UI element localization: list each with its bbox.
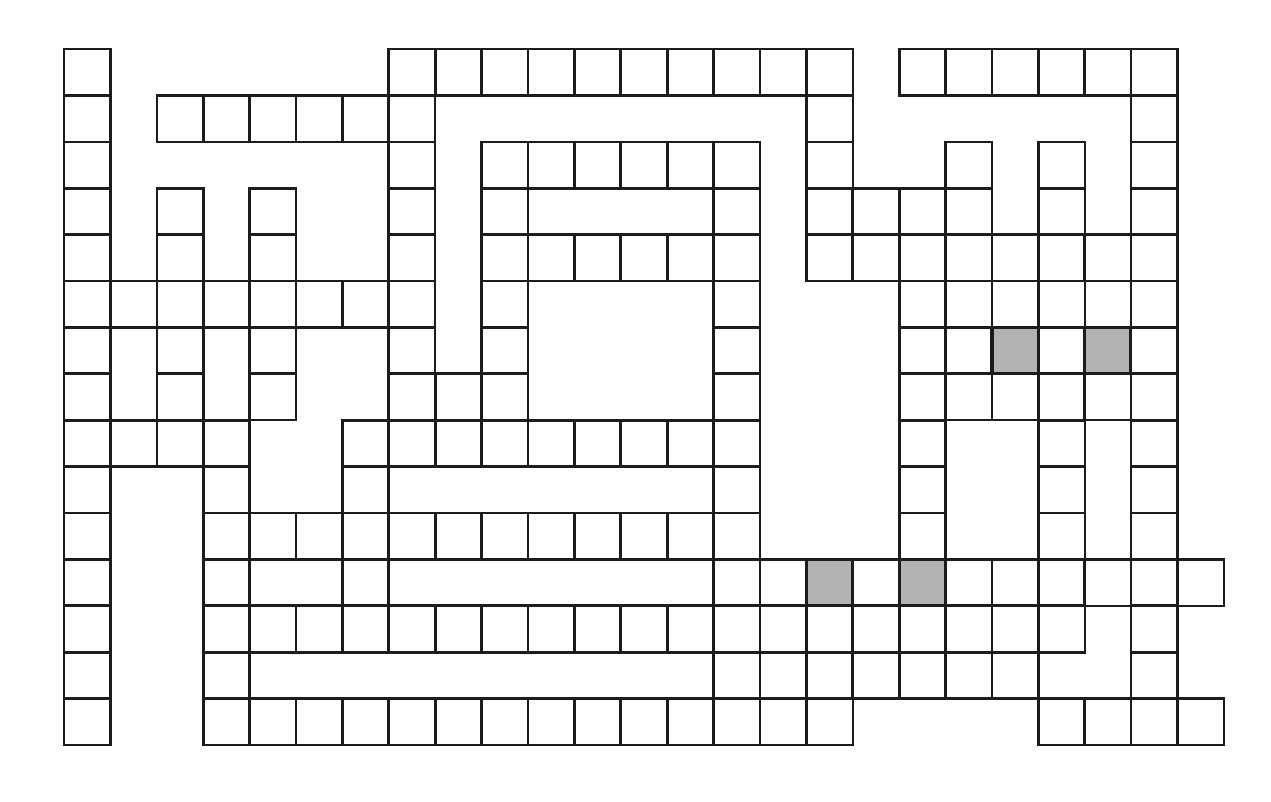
crossword-cell[interactable] [435,49,481,95]
crossword-cell[interactable] [1131,652,1177,698]
crossword-cell[interactable] [667,606,713,652]
crossword-cell-shaded[interactable] [899,559,945,605]
crossword-cell[interactable] [296,95,342,141]
crossword-cell[interactable] [482,327,528,373]
crossword-cell[interactable] [389,374,435,420]
crossword-cell[interactable] [853,188,899,234]
crossword-cell[interactable] [714,699,760,745]
crossword-cell[interactable] [714,327,760,373]
crossword-cell[interactable] [528,49,574,95]
crossword-cell[interactable] [528,606,574,652]
crossword-cell[interactable] [342,699,388,745]
crossword-cell[interactable] [1038,699,1084,745]
crossword-cell[interactable] [667,420,713,466]
crossword-cell[interactable] [714,188,760,234]
crossword-cell[interactable] [250,281,296,327]
crossword-cell[interactable] [992,606,1038,652]
crossword-cell[interactable] [714,513,760,559]
crossword-cell[interactable] [157,281,203,327]
crossword-cell[interactable] [621,699,667,745]
crossword-cell[interactable] [342,420,388,466]
crossword-cell[interactable] [64,420,110,466]
crossword-cell[interactable] [899,49,945,95]
crossword-cell[interactable] [389,49,435,95]
crossword-cell[interactable] [203,652,249,698]
crossword-cell-shaded[interactable] [1085,327,1131,373]
crossword-cell[interactable] [1038,513,1084,559]
crossword-cell[interactable] [621,235,667,281]
crossword-cell[interactable] [574,513,620,559]
crossword-cell[interactable] [1038,559,1084,605]
crossword-cell[interactable] [64,49,110,95]
crossword-cell[interactable] [806,606,852,652]
crossword-cell[interactable] [1131,374,1177,420]
crossword-cell[interactable] [946,374,992,420]
crossword-cell[interactable] [1131,49,1177,95]
crossword-cell[interactable] [528,142,574,188]
crossword-cell[interactable] [574,699,620,745]
crossword-cell[interactable] [389,699,435,745]
crossword-cell[interactable] [1038,327,1084,373]
crossword-cell[interactable] [64,327,110,373]
crossword-cell[interactable] [667,142,713,188]
crossword-cell[interactable] [296,281,342,327]
crossword-cell[interactable] [64,652,110,698]
crossword-cell[interactable] [714,235,760,281]
crossword-cell[interactable] [714,559,760,605]
crossword-cell[interactable] [64,95,110,141]
crossword-cell[interactable] [574,142,620,188]
crossword-cell[interactable] [482,374,528,420]
crossword-cell[interactable] [1038,467,1084,513]
crossword-cell[interactable] [621,142,667,188]
crossword-cell[interactable] [435,513,481,559]
crossword-cell[interactable] [250,374,296,420]
crossword-cell[interactable] [621,513,667,559]
crossword-cell[interactable] [389,188,435,234]
crossword-cell[interactable] [250,606,296,652]
crossword-cell[interactable] [528,513,574,559]
crossword-cell[interactable] [157,188,203,234]
crossword-cell[interactable] [296,513,342,559]
crossword-cell[interactable] [342,95,388,141]
crossword-cell[interactable] [714,606,760,652]
crossword-cell[interactable] [64,374,110,420]
crossword-cell[interactable] [435,606,481,652]
crossword-cell[interactable] [760,559,806,605]
crossword-cell[interactable] [1038,606,1084,652]
crossword-cell[interactable] [992,374,1038,420]
crossword-cell[interactable] [482,235,528,281]
crossword-cell[interactable] [157,235,203,281]
crossword-cell[interactable] [250,188,296,234]
crossword-cell[interactable] [157,420,203,466]
crossword-cell[interactable] [250,513,296,559]
crossword-cell[interactable] [899,467,945,513]
crossword-cell[interactable] [714,281,760,327]
crossword-cell[interactable] [64,559,110,605]
crossword-cell[interactable] [621,606,667,652]
crossword-cell[interactable] [389,420,435,466]
crossword-cell[interactable] [342,281,388,327]
crossword-grid-container[interactable] [62,47,1230,751]
crossword-cell[interactable] [946,281,992,327]
crossword-cell[interactable] [1131,467,1177,513]
crossword-cell[interactable] [853,606,899,652]
crossword-cell[interactable] [946,327,992,373]
crossword-cell[interactable] [482,513,528,559]
crossword-cell[interactable] [853,235,899,281]
crossword-cell[interactable] [806,699,852,745]
crossword-cell[interactable] [296,699,342,745]
crossword-cell[interactable] [667,699,713,745]
crossword-cell[interactable] [389,606,435,652]
crossword-cell[interactable] [1038,420,1084,466]
crossword-cell[interactable] [1131,142,1177,188]
crossword-cell[interactable] [946,142,992,188]
crossword-cell[interactable] [203,420,249,466]
crossword-cell[interactable] [64,281,110,327]
crossword-cell[interactable] [714,420,760,466]
crossword-cell[interactable] [899,606,945,652]
crossword-cell[interactable] [667,513,713,559]
crossword-cell[interactable] [667,235,713,281]
crossword-cell[interactable] [1038,281,1084,327]
crossword-cell-shaded[interactable] [992,327,1038,373]
crossword-cell[interactable] [899,235,945,281]
